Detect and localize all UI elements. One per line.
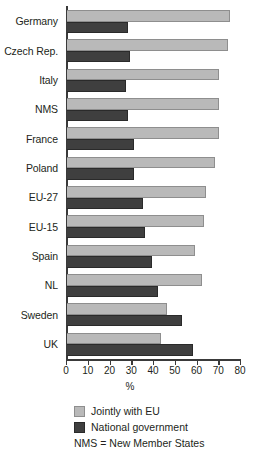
- bar-national-government: [67, 51, 130, 63]
- category-label: France: [0, 124, 62, 153]
- bar-national-government: [67, 22, 128, 34]
- bar-national-government: [67, 110, 128, 122]
- x-axis-tick-label: 0: [63, 366, 69, 376]
- bar-group: [67, 36, 241, 65]
- bar-jointly-with-eu: [67, 69, 219, 81]
- bar-national-government: [67, 344, 193, 356]
- category-label: Poland: [0, 154, 62, 183]
- category-label: Sweden: [0, 300, 62, 329]
- category-label: Germany: [0, 7, 62, 36]
- category-label: Czech Rep.: [0, 36, 62, 65]
- bar-jointly-with-eu: [67, 333, 161, 345]
- x-axis-tick-label: 10: [82, 366, 93, 376]
- category-label: Spain: [0, 242, 62, 271]
- legend-item-national-government: National government: [74, 420, 260, 435]
- bar-group: [67, 66, 241, 95]
- bar-jointly-with-eu: [67, 245, 195, 257]
- legend-label: Jointly with EU: [91, 406, 160, 417]
- bars-container: [67, 7, 241, 359]
- bar-group: [67, 183, 241, 212]
- bar-national-government: [67, 168, 134, 180]
- category-axis-labels: GermanyCzech Rep.ItalyNMSFrancePolandEU-…: [0, 7, 62, 359]
- bar-jointly-with-eu: [67, 186, 206, 198]
- bar-jointly-with-eu: [67, 274, 202, 286]
- x-axis-tick-labels: 01020304050607080: [0, 366, 260, 380]
- legend-swatch-light-icon: [74, 406, 85, 417]
- category-label: UK: [0, 330, 62, 359]
- category-label: NL: [0, 271, 62, 300]
- bar-group: [67, 271, 241, 300]
- bar-group: [67, 242, 241, 271]
- bar-national-government: [67, 286, 158, 298]
- x-axis-tick-label: 70: [213, 366, 224, 376]
- bar-jointly-with-eu: [67, 215, 204, 227]
- bar-national-government: [67, 139, 134, 151]
- legend-note: NMS = New Member States: [74, 438, 260, 449]
- x-axis-tick-label: 60: [191, 366, 202, 376]
- bar-jointly-with-eu: [67, 303, 167, 315]
- legend-item-jointly-with-eu: Jointly with EU: [74, 404, 260, 419]
- bar-national-government: [67, 227, 145, 239]
- category-label: NMS: [0, 95, 62, 124]
- bar-group: [67, 154, 241, 183]
- x-axis-tick-label: 30: [126, 366, 137, 376]
- bar-jointly-with-eu: [67, 127, 219, 139]
- bar-group: [67, 124, 241, 153]
- x-axis-tick-label: 20: [104, 366, 115, 376]
- x-axis-tick-label: 80: [234, 366, 245, 376]
- x-axis-title: %: [0, 381, 260, 392]
- x-axis-tick-label: 40: [147, 366, 158, 376]
- bar-group: [67, 212, 241, 241]
- x-axis-tick-label: 50: [169, 366, 180, 376]
- bar-group: [67, 95, 241, 124]
- bar-jointly-with-eu: [67, 10, 230, 22]
- bar-jointly-with-eu: [67, 39, 228, 51]
- legend-swatch-dark-icon: [74, 422, 85, 433]
- legend-label: National government: [91, 422, 188, 433]
- bar-group: [67, 330, 241, 359]
- plot-area: GermanyCzech Rep.ItalyNMSFrancePolandEU-…: [0, 0, 260, 372]
- bar-national-government: [67, 80, 126, 92]
- bar-national-government: [67, 256, 152, 268]
- category-label: EU-27: [0, 183, 62, 212]
- bar-jointly-with-eu: [67, 98, 219, 110]
- category-label: Italy: [0, 66, 62, 95]
- bar-national-government: [67, 315, 182, 327]
- bar-jointly-with-eu: [67, 157, 215, 169]
- bar-group: [67, 300, 241, 329]
- chart-legend: Jointly with EU National government NMS …: [74, 404, 260, 449]
- category-label: EU-15: [0, 212, 62, 241]
- bar-group: [67, 7, 241, 36]
- bar-national-government: [67, 198, 143, 210]
- bar-chart: GermanyCzech Rep.ItalyNMSFrancePolandEU-…: [0, 0, 260, 453]
